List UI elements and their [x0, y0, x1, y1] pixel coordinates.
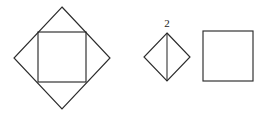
- dimension-label-2: 2: [164, 17, 170, 29]
- large-diamond: [14, 7, 110, 109]
- inscribed-square: [38, 32, 86, 82]
- right-square: [203, 31, 253, 81]
- geometry-diagram: 2: [0, 0, 271, 114]
- geometry-figure-canvas: 2: [0, 0, 271, 114]
